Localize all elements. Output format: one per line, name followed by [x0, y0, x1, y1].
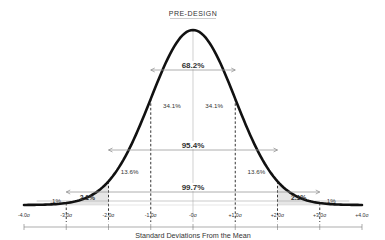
normal-distribution-chart: PRE-DESIGN 68.2%95.4%99.7% .1%2.1%13.6%3… [0, 0, 385, 240]
chart-title: PRE-DESIGN [169, 10, 218, 17]
x-tick-label: -1.0σ [145, 212, 158, 218]
x-tick-label: +2.0σ [271, 212, 285, 218]
x-tick-label: -3.0σ [60, 212, 73, 218]
range-label: 95.4% [182, 141, 205, 150]
x-tick-label: -4.0σ [18, 212, 31, 218]
x-axis: -4.0σ-3.0σ-2.0σ-1.0σ-0σ+1.0σ+2.0σ+3.0σ+4… [18, 212, 370, 230]
range-label: 68.2% [182, 61, 205, 70]
segment-percent-label: .1% [50, 197, 61, 204]
x-tick-label: -0σ [189, 212, 198, 218]
x-tick-label: +1.0σ [229, 212, 243, 218]
x-tick-label: +4.0σ [355, 212, 369, 218]
x-tick-label: -2.0σ [102, 212, 115, 218]
segment-percent-label: 13.6% [248, 168, 266, 175]
guide-lines [24, 30, 362, 222]
segment-percent-label: 2.1% [291, 194, 307, 201]
segment-percent-label: 13.6% [121, 168, 139, 175]
range-label: 99.7% [182, 183, 205, 192]
segment-percent-label: 2.1% [80, 194, 96, 201]
segment-percent-label: .1% [325, 197, 336, 204]
segment-percent-label: 34.1% [205, 102, 223, 109]
x-tick-label: +3.0σ [313, 212, 327, 218]
x-axis-label: Standard Deviations From the Mean [135, 231, 250, 240]
segment-percent-label: 34.1% [163, 102, 181, 109]
